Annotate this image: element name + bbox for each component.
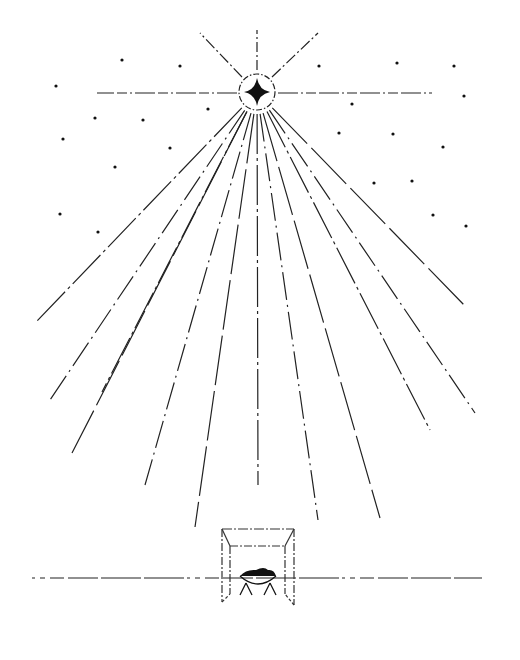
background-star [372,181,375,184]
background-star [431,213,434,216]
background-star [337,131,340,134]
light-ray [145,113,251,485]
background-star [113,165,116,168]
light-ray [272,33,318,77]
stable [222,529,294,605]
background-stars [54,58,467,233]
star-of-bethlehem-icon [244,78,270,106]
manger-icon [240,568,276,595]
nativity-illustration [0,0,520,660]
background-star [168,146,171,149]
light-ray [260,114,318,520]
background-star [58,212,61,215]
background-star [61,137,64,140]
background-star [120,58,123,61]
background-star [54,84,57,87]
lower-fan-rays [36,108,475,527]
background-star [464,224,467,227]
background-star [317,64,320,67]
light-ray [50,110,245,400]
light-ray [200,33,242,77]
light-ray [267,112,430,430]
background-star [441,145,444,148]
background-star [178,64,181,67]
background-star [141,118,144,121]
light-ray [36,108,242,322]
upper-rays [97,30,432,93]
background-star [462,94,465,97]
light-ray [263,113,380,518]
background-star [395,61,398,64]
light-ray [257,114,258,485]
background-star [350,102,353,105]
light-ray [272,108,466,307]
light-ray [195,114,254,527]
light-ray [269,110,475,413]
background-star [96,230,99,233]
background-star [452,64,455,67]
background-star [391,132,394,135]
background-star [93,116,96,119]
background-star [206,107,209,110]
background-star [410,179,413,182]
